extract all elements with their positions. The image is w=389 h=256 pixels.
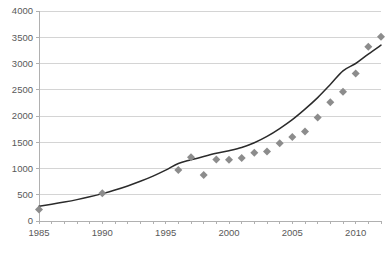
- data-point-1990: [98, 189, 106, 197]
- data-point-2009: [339, 88, 347, 96]
- y-axis-tick-labels: 05001000150020002500300035004000: [12, 5, 33, 226]
- data-point-1985: [35, 205, 43, 213]
- trendline-path: [39, 45, 381, 206]
- data-point-2004: [276, 139, 284, 147]
- x-tick-label-2005: 2005: [282, 227, 303, 238]
- data-point-2012: [377, 33, 385, 41]
- x-tick-label-1995: 1995: [155, 227, 176, 238]
- data-point-2003: [263, 147, 271, 155]
- chart-container: 05001000150020002500300035004000 1985199…: [0, 0, 389, 256]
- y-tick-label-1500: 1500: [12, 137, 33, 148]
- x-axis-tick-labels: 198519901995200020052010: [28, 227, 366, 238]
- data-point-2001: [238, 154, 246, 162]
- y-tick-label-2000: 2000: [12, 110, 33, 121]
- y-tick-label-3500: 3500: [12, 32, 33, 43]
- data-point-2007: [314, 114, 322, 122]
- data-point-1999: [212, 156, 220, 164]
- x-tick-label-2010: 2010: [345, 227, 366, 238]
- y-tick-label-1000: 1000: [12, 163, 33, 174]
- data-point-2010: [352, 69, 360, 77]
- data-point-2006: [301, 127, 309, 135]
- data-markers: [35, 33, 385, 214]
- y-tick-label-500: 500: [17, 189, 33, 200]
- data-point-1998: [200, 171, 208, 179]
- data-point-2002: [250, 149, 258, 157]
- x-tick-label-1990: 1990: [92, 227, 113, 238]
- x-tick-label-2000: 2000: [218, 227, 239, 238]
- x-tick-label-1985: 1985: [28, 227, 49, 238]
- data-point-1996: [174, 166, 182, 174]
- y-tick-label-3000: 3000: [12, 58, 33, 69]
- y-tick-label-2500: 2500: [12, 84, 33, 95]
- y-tick-label-4000: 4000: [12, 5, 33, 16]
- data-point-2011: [364, 43, 372, 51]
- scatter-chart: 05001000150020002500300035004000 1985199…: [0, 0, 389, 256]
- y-tick-label-0: 0: [28, 215, 33, 226]
- trendline: [39, 45, 381, 206]
- data-point-2000: [225, 156, 233, 164]
- data-point-2005: [288, 133, 296, 141]
- data-point-2008: [326, 98, 334, 106]
